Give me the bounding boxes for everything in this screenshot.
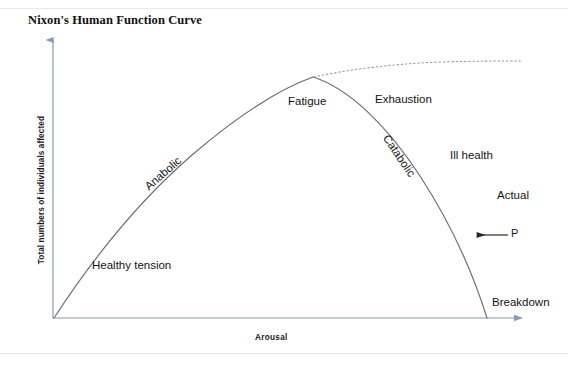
expected-performance-dotted-curve: [314, 61, 521, 77]
chart-canvas: [0, 0, 568, 366]
human-function-curve-figure: Nixon's Human Function Curve Total numbe…: [0, 0, 568, 366]
annotation-breakdown: Breakdown: [492, 297, 550, 309]
annotation-exhaustion: Exhaustion: [375, 94, 432, 106]
annotation-healthy-tension: Healthy tension: [92, 260, 171, 272]
annotation-ill-health: Ill health: [450, 150, 493, 162]
human-function-curve: [54, 77, 487, 318]
x-axis-label: Arousal: [255, 334, 288, 342]
annotation-p-label: P: [511, 228, 518, 239]
chart-title: Nixon's Human Function Curve: [28, 14, 202, 27]
y-axis-label: Total numbers of individuals affected: [38, 95, 46, 285]
annotation-fatigue: Fatigue: [288, 96, 326, 108]
annotation-actual-illness: Actual: [497, 190, 529, 202]
